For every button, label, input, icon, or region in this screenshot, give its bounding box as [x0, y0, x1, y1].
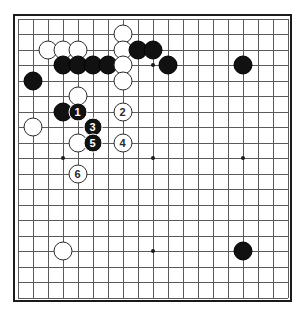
- go-stone-white-move-4[interactable]: 4: [113, 133, 132, 152]
- go-stone-black[interactable]: [143, 40, 162, 59]
- go-stone-black[interactable]: [158, 56, 177, 75]
- go-stone-black-move-1[interactable]: 1: [68, 102, 87, 121]
- stone-move-number: 5: [89, 137, 95, 148]
- go-stone-white[interactable]: [53, 242, 72, 261]
- go-stone-black[interactable]: [23, 71, 42, 90]
- stone-move-number: 3: [89, 122, 95, 133]
- go-stone-black[interactable]: [233, 242, 252, 261]
- go-stone-black-move-5[interactable]: 5: [83, 133, 102, 152]
- go-board[interactable]: 123546: [13, 14, 292, 302]
- go-board-figure: 123546: [0, 0, 306, 317]
- go-stone-white-move-2[interactable]: 2: [113, 102, 132, 121]
- go-stone-white[interactable]: [113, 71, 132, 90]
- go-stone-black[interactable]: [233, 56, 252, 75]
- go-stone-white-move-6[interactable]: 6: [68, 164, 87, 183]
- stone-move-number: 6: [74, 168, 80, 179]
- stone-move-number: 1: [74, 106, 80, 117]
- stone-move-number: 2: [119, 106, 125, 117]
- stone-move-number: 4: [119, 137, 125, 148]
- stones-layer: 123546: [15, 16, 294, 304]
- go-stone-white[interactable]: [23, 118, 42, 137]
